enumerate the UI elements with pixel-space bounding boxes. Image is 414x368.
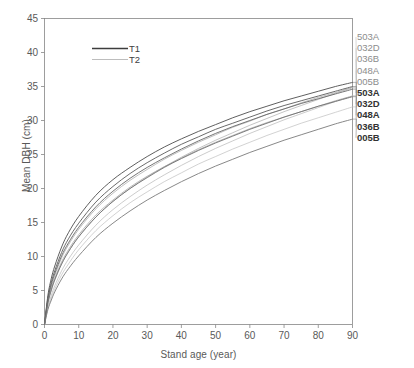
legend-label-t2: T2 xyxy=(129,55,140,65)
label-leader-lines xyxy=(353,37,357,138)
series-line-t1-048A xyxy=(45,89,353,324)
series-line-t2-503A xyxy=(45,88,353,325)
legend-label-t1: T1 xyxy=(129,44,140,54)
series-end-label-t2-503A: 503A xyxy=(357,32,379,42)
chart-container: Mean DBH (cm) Stand age (year) 051015202… xyxy=(0,0,414,368)
series-end-label-t1-048A: 048A xyxy=(357,110,380,120)
tick-marks xyxy=(41,19,353,329)
series-lines xyxy=(45,82,353,324)
legend-marks xyxy=(92,49,128,60)
axis-frame xyxy=(45,19,353,325)
series-end-label-t2-048A: 048A xyxy=(357,66,379,76)
series-line-t2-005B xyxy=(45,107,353,325)
series-line-t1-032D xyxy=(45,87,353,325)
series-line-t2-036B xyxy=(45,96,353,324)
series-line-t2-048A xyxy=(45,96,353,324)
series-line-t2-032D xyxy=(45,87,353,324)
series-end-label-t1-032D: 032D xyxy=(357,99,380,109)
series-end-label-t2-005B: 005B xyxy=(357,77,379,87)
series-end-label-t1-036B: 036B xyxy=(357,122,380,132)
plot-area xyxy=(0,0,414,368)
series-end-label-t1-005B: 005B xyxy=(357,133,380,143)
series-end-label-t1-503A: 503A xyxy=(357,88,380,98)
series-end-label-t2-032D: 032D xyxy=(357,43,380,53)
plot-border xyxy=(45,19,353,325)
series-line-t1-503A xyxy=(45,82,353,324)
series-end-label-t2-036B: 036B xyxy=(357,54,379,64)
